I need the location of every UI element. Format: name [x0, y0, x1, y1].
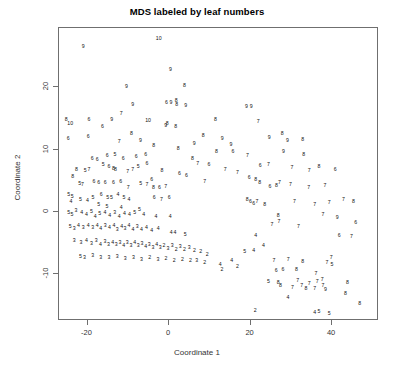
data-point-label: 7 — [277, 220, 280, 225]
mds-scatter-figure: MDS labeled by leaf numbers 910998969889… — [0, 0, 394, 378]
data-point-label: 6 — [165, 100, 168, 105]
data-point-label: 4 — [70, 200, 73, 205]
data-point-label: 4 — [142, 212, 145, 217]
data-point-label: 6 — [145, 161, 148, 166]
data-point-label: 2 — [206, 252, 209, 257]
data-point-label: 4 — [174, 231, 177, 236]
data-point-label: 5 — [67, 192, 70, 197]
data-point-label: 4 — [155, 243, 158, 248]
data-point-label: 6 — [88, 117, 91, 122]
data-point-label: 4 — [254, 233, 257, 238]
data-point-label: 7 — [293, 200, 296, 205]
data-point-label: 10 — [67, 122, 73, 127]
data-point-label: 3 — [108, 256, 111, 261]
data-point-label: 9 — [82, 44, 85, 49]
data-point-label: 6 — [259, 163, 262, 168]
data-point-label: 2 — [220, 267, 223, 272]
data-point-label: 9 — [286, 138, 289, 143]
data-point-label: 4 — [87, 224, 90, 229]
data-point-label: 4 — [80, 211, 83, 216]
data-point-label: 7 — [278, 180, 281, 185]
data-point-label: 3 — [152, 245, 155, 250]
y-axis-tick-label: 10 — [41, 142, 50, 156]
data-point-label: 3 — [137, 244, 140, 249]
data-point-label: 5 — [330, 262, 333, 267]
data-point-label: 8 — [114, 168, 117, 173]
data-point-label: 6 — [354, 221, 357, 226]
data-point-label: 8 — [301, 138, 304, 143]
data-point-label: 8 — [152, 185, 155, 190]
data-point-label: 4 — [86, 198, 89, 203]
data-point-label: 7 — [131, 168, 134, 173]
data-point-label: 3 — [141, 241, 144, 246]
data-point-label: 9 — [131, 102, 134, 107]
data-point-label: 8 — [344, 292, 347, 297]
data-point-label: 5 — [105, 205, 108, 210]
data-point-label: 8 — [152, 143, 155, 148]
data-point-label: 9 — [169, 100, 172, 105]
data-point-label: 6 — [158, 186, 161, 191]
data-point-label: 8 — [215, 150, 218, 155]
data-point-label: 7 — [271, 222, 274, 227]
data-point-label: 7 — [273, 259, 276, 264]
data-point-label: 3 — [156, 258, 159, 263]
data-point-label: 6 — [334, 167, 337, 172]
data-point-label: 3 — [107, 243, 110, 248]
data-point-label: 7 — [291, 165, 294, 170]
data-point-label: 5 — [184, 233, 187, 238]
data-point-label: 7 — [255, 200, 258, 205]
data-point-label: 5 — [84, 168, 87, 173]
x-axis-tick — [250, 320, 251, 325]
data-point-label: 8 — [130, 131, 133, 136]
data-point-label: 3 — [130, 243, 133, 248]
data-point-label: 5 — [106, 196, 109, 201]
data-point-label: 8 — [258, 180, 261, 185]
x-axis-tick-label: 0 — [166, 328, 170, 337]
data-point-label: 2 — [236, 264, 239, 269]
data-point-label: 4 — [103, 211, 106, 216]
x-axis-tick — [87, 320, 88, 325]
data-point-label: 5 — [243, 249, 246, 254]
data-point-label: 6 — [168, 196, 171, 201]
data-point-label: 7 — [300, 283, 303, 288]
data-point-label: 6 — [178, 171, 181, 176]
data-point-label: 6 — [119, 179, 122, 184]
data-point-label: 7 — [289, 183, 292, 188]
data-point-label: 8 — [166, 122, 169, 127]
data-point-label: 8 — [263, 202, 266, 207]
data-point-label: 2 — [193, 249, 196, 254]
data-point-label: 3 — [82, 226, 85, 231]
data-point-label: 8 — [254, 178, 257, 183]
data-point-label: 9 — [110, 117, 113, 122]
data-point-label: 5 — [139, 181, 142, 186]
data-point-label: 9 — [125, 84, 128, 89]
data-point-label: 3 — [148, 242, 151, 247]
data-point-label: 3 — [116, 227, 119, 232]
y-axis-tick-label: 20 — [41, 79, 50, 93]
data-point-label: 7 — [328, 201, 331, 206]
data-point-label: 10 — [145, 118, 151, 123]
data-point-label: 5 — [90, 210, 93, 215]
data-point-label: 9 — [245, 104, 248, 109]
page-title: MDS labeled by leaf numbers — [0, 6, 394, 17]
data-point-label: 8 — [174, 124, 177, 129]
data-point-label: 2 — [163, 243, 166, 248]
data-point-label: 2 — [148, 256, 151, 261]
data-point-label: 2 — [189, 259, 192, 264]
data-point-label: 8 — [295, 268, 298, 273]
data-point-label: 6 — [282, 267, 285, 272]
data-point-label: 8 — [346, 281, 349, 286]
data-point-label: 2 — [254, 308, 257, 313]
data-point-label: 3 — [188, 246, 191, 251]
data-point-label: 3 — [115, 243, 118, 248]
data-point-label: 4 — [140, 227, 143, 232]
data-point-label: 8 — [160, 168, 163, 173]
data-point-label: 3 — [83, 256, 86, 261]
data-point-label: 7 — [145, 183, 148, 188]
data-point-label: 4 — [169, 215, 172, 220]
data-point-label: 4 — [118, 214, 121, 219]
data-point-label: 5 — [114, 152, 117, 157]
data-point-label: 9 — [250, 104, 253, 109]
data-point-label: 8 — [202, 133, 205, 138]
data-point-label: 6 — [231, 149, 234, 154]
